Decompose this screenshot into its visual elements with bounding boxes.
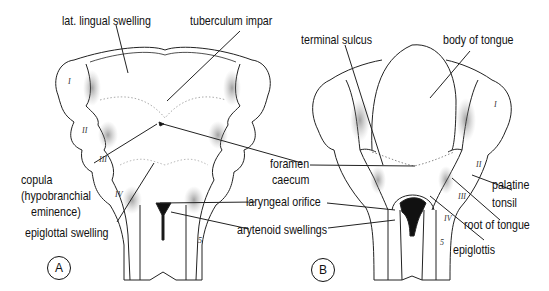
arch-numeral-a-2: II [82, 126, 87, 135]
panel-a-drawing [56, 25, 302, 280]
label-copula-eminence: eminence) [31, 205, 81, 219]
label-laryngeal-orifice: laryngeal orifice [246, 195, 321, 209]
label-arytenoid-swellings: arytenoid swellings [237, 223, 327, 237]
label-palatine: palatine [492, 178, 529, 192]
arch-numeral-a-1: I [68, 77, 71, 86]
label-foramen: foramen [270, 157, 309, 171]
label-copula: copula [21, 173, 52, 187]
arch-numeral-b-1: I [494, 100, 497, 109]
label-tuberculum-impar: tuberculum impar [190, 14, 272, 28]
arch-numeral-b-2: II [476, 160, 481, 169]
arch-numeral-a-3: III [99, 155, 107, 164]
label-lat-lingual-swelling: lat. lingual swelling [62, 14, 151, 28]
panel-b-badge: B [311, 258, 335, 282]
panel-a-badge: A [47, 256, 71, 280]
arch-numeral-b-4: IV [444, 214, 452, 223]
arch-numeral-a-4: IV [115, 190, 123, 199]
label-epiglottal-swelling: epiglottal swelling [25, 226, 109, 240]
label-terminal-sulcus: terminal sulcus [301, 33, 372, 47]
arch-numeral-b-3: III [458, 192, 466, 201]
label-caecum: caecum [272, 173, 309, 187]
tongue-development-figure: lat. lingual swelling tuberculum impar c… [0, 0, 549, 291]
mark-a-5: 5 [198, 236, 202, 245]
label-body-of-tongue: body of tongue [443, 33, 514, 47]
mark-b-5: 5 [440, 238, 444, 247]
label-tonsil: tonsil [492, 196, 517, 210]
label-epiglottis: epiglottis [453, 243, 495, 257]
label-copula-hypobranchial: (hypobranchial [21, 189, 91, 203]
label-root-of-tongue: root of tongue [464, 218, 530, 232]
